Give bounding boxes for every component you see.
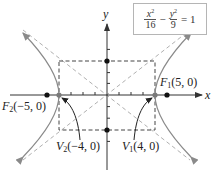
x-exponent: 2: [151, 8, 154, 14]
vertex-1-pointer: [134, 98, 152, 140]
fraction-y: y2 9: [169, 8, 178, 30]
x-denominator: 16: [144, 19, 156, 30]
focus-2-point: [44, 92, 49, 97]
vertex-2-label: V2(−4, 0): [56, 140, 100, 154]
fraction-x: x2 16: [144, 8, 156, 30]
vertex-1-label: V1(4, 0): [122, 140, 159, 154]
focus-1-label: F1(5, 0): [160, 76, 197, 90]
vertex-2-point: [56, 92, 61, 97]
co-vertex-top-point: [104, 58, 109, 63]
co-vertex-bottom-point: [104, 127, 109, 132]
x-axis-label: x: [205, 89, 210, 101]
y-axis-label: y: [103, 8, 108, 20]
minus-operator: −: [159, 13, 165, 25]
focus-1-point: [164, 92, 169, 97]
equals-one: = 1: [181, 13, 195, 25]
y-denominator: 9: [170, 19, 177, 30]
equation-box: x2 16 − y2 9 = 1: [133, 3, 207, 35]
y-exponent: 2: [174, 8, 177, 14]
focus-2-label: F2(−5, 0): [2, 100, 46, 114]
vertex-1-point: [152, 92, 157, 97]
vertex-2-pointer: [62, 98, 80, 140]
